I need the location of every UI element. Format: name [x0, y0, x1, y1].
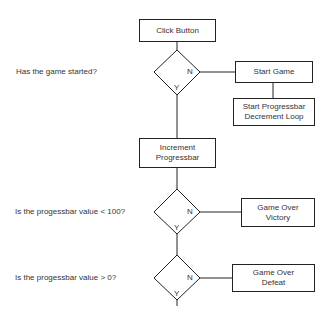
label-no-2: N — [187, 207, 193, 216]
label-yes-3: Y — [174, 289, 179, 298]
node-start-progressbar-loop: Start Progressbar Decrement Loop — [233, 98, 315, 126]
label-yes-1: Y — [174, 83, 179, 92]
question-less-than-100: Is the progessbar value < 100? — [15, 207, 125, 216]
label-yes-2: Y — [174, 223, 179, 232]
node-start-game: Start Game — [235, 61, 313, 83]
question-game-started: Has the game started? — [16, 67, 97, 76]
node-increment-progressbar: Increment Progressbar — [139, 138, 216, 168]
label-no-3: N — [187, 273, 193, 282]
question-greater-than-0: Is the progessbar value > 0? — [15, 273, 116, 282]
node-click-button: Click Button — [139, 19, 216, 42]
node-game-over-defeat: Game Over Defeat — [232, 264, 315, 292]
label-no-1: N — [187, 67, 193, 76]
node-game-over-victory: Game Over Victory — [241, 198, 315, 227]
